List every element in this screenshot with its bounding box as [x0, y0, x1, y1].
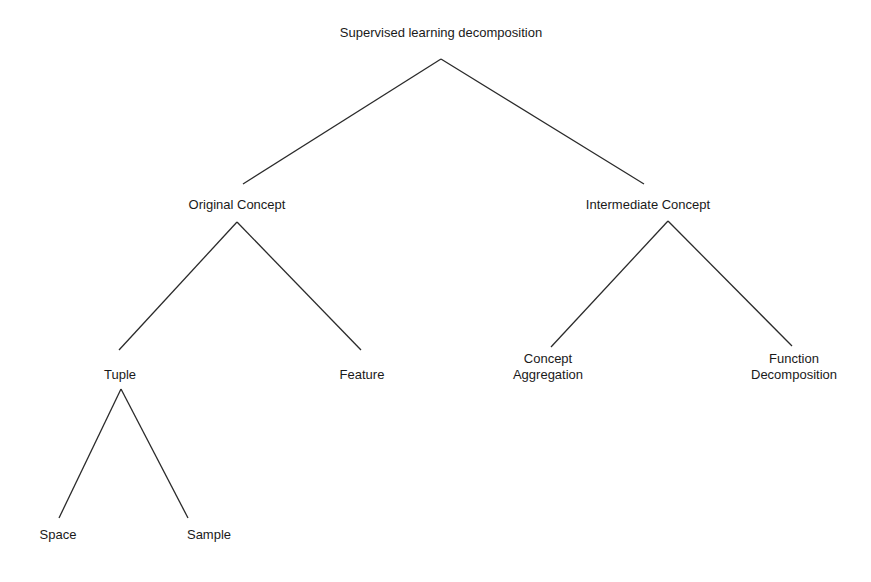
node-feature-label: Feature: [340, 367, 385, 383]
node-intermediate-concept: Intermediate Concept: [586, 197, 710, 213]
edge-original-feature: [237, 222, 361, 350]
edge-intermediate-aggregation: [551, 221, 668, 347]
node-intermediate-concept-label: Intermediate Concept: [586, 197, 710, 213]
edge-root-intermediate: [441, 59, 644, 184]
edge-original-tuple: [119, 222, 237, 350]
node-root: Supervised learning decomposition: [340, 25, 542, 41]
node-sample-label: Sample: [187, 527, 231, 543]
edge-tuple-sample: [121, 389, 188, 518]
node-sample: Sample: [187, 527, 231, 543]
tree-edges: [0, 0, 871, 582]
edge-intermediate-function: [668, 221, 792, 346]
node-concept-aggregation-line2: Aggregation: [513, 367, 583, 383]
node-space: Space: [40, 527, 77, 543]
edge-root-original: [243, 59, 441, 184]
node-original-concept-label: Original Concept: [189, 197, 286, 213]
node-function-decomposition: Function Decomposition: [751, 351, 837, 383]
node-root-label: Supervised learning decomposition: [340, 25, 542, 41]
node-concept-aggregation-line1: Concept: [513, 351, 583, 367]
node-concept-aggregation: Concept Aggregation: [513, 351, 583, 383]
tree-diagram: Supervised learning decomposition Origin…: [0, 0, 871, 582]
node-original-concept: Original Concept: [189, 197, 286, 213]
node-space-label: Space: [40, 527, 77, 543]
node-function-decomposition-line2: Decomposition: [751, 367, 837, 383]
node-function-decomposition-line1: Function: [751, 351, 837, 367]
node-feature: Feature: [340, 367, 385, 383]
edge-tuple-space: [59, 389, 121, 518]
node-tuple-label: Tuple: [104, 367, 136, 383]
node-tuple: Tuple: [104, 367, 136, 383]
